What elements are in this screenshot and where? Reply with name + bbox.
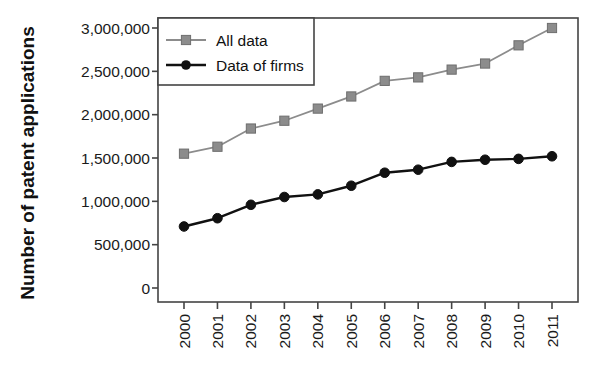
- data-point-marker: [246, 200, 256, 210]
- data-point-marker: [380, 76, 389, 85]
- data-point-marker: [447, 65, 456, 74]
- data-point-marker: [480, 59, 489, 68]
- data-point-marker: [280, 116, 289, 125]
- x-tick-label: 2008: [443, 314, 460, 348]
- x-tick-label: 2007: [410, 314, 427, 348]
- data-point-marker: [547, 151, 557, 161]
- data-point-marker: [313, 190, 323, 200]
- data-point-marker: [346, 181, 356, 191]
- x-tick-label: 2011: [544, 314, 561, 347]
- data-point-marker: [179, 222, 189, 232]
- data-point-marker: [246, 124, 255, 133]
- y-tick-label: 2,000,000: [81, 106, 150, 123]
- legend-marker: [181, 35, 190, 44]
- y-tick-label: 0: [141, 280, 150, 297]
- y-tick-label: 3,000,000: [81, 20, 150, 37]
- series-2: [179, 151, 557, 231]
- legend-marker: [181, 60, 191, 70]
- y-tick-label: 1,000,000: [81, 193, 150, 210]
- x-tick-label: 2004: [309, 314, 326, 349]
- data-point-marker: [413, 165, 423, 175]
- data-point-marker: [347, 92, 356, 101]
- x-tick-label: 2003: [276, 314, 293, 348]
- x-axis-tick-labels: 2000200120022003200420052006200720082009…: [176, 314, 561, 349]
- legend-label: All data: [216, 32, 268, 49]
- data-point-marker: [414, 73, 423, 82]
- patent-applications-line-chart: Number of patent applications 0500,0001,…: [0, 0, 603, 386]
- y-axis-title: Number of patent applications: [17, 26, 38, 299]
- y-axis-tick-labels: 0500,0001,000,0001,500,0002,000,0002,500…: [81, 20, 150, 297]
- legend-label: Data of firms: [216, 57, 304, 74]
- series-line: [184, 156, 552, 226]
- x-tick-label: 2005: [343, 314, 360, 348]
- x-tick-label: 2001: [209, 314, 226, 348]
- y-tick-label: 1,500,000: [81, 150, 150, 167]
- data-point-marker: [514, 154, 524, 164]
- x-axis-tick-marks: [184, 302, 552, 309]
- data-point-marker: [547, 23, 556, 32]
- legend-box: [158, 18, 314, 85]
- y-tick-label: 2,500,000: [81, 63, 150, 80]
- y-tick-label: 500,000: [94, 236, 150, 253]
- x-tick-label: 2010: [510, 314, 527, 349]
- x-tick-label: 2002: [242, 314, 259, 348]
- data-point-marker: [447, 157, 457, 167]
- chart-legend: All dataData of firms: [158, 18, 314, 85]
- data-point-marker: [280, 192, 290, 202]
- data-point-marker: [514, 41, 523, 50]
- chart-canvas: Number of patent applications 0500,0001,…: [0, 0, 603, 386]
- x-tick-label: 2006: [376, 314, 393, 348]
- x-tick-label: 2009: [477, 314, 494, 348]
- y-axis-tick-marks: [152, 28, 158, 288]
- x-tick-label: 2000: [176, 314, 193, 349]
- data-point-marker: [480, 155, 490, 165]
- data-point-marker: [213, 142, 222, 151]
- data-point-marker: [179, 149, 188, 158]
- data-point-marker: [213, 213, 223, 223]
- data-point-marker: [313, 104, 322, 113]
- data-point-marker: [380, 168, 390, 178]
